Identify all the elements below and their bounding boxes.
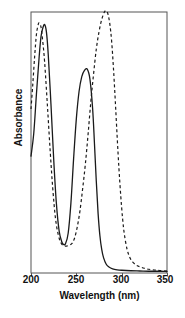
y-axis-label: Absorbance (13, 78, 24, 158)
x-tick-label-200: 200 (16, 274, 46, 285)
series-line-solid (31, 24, 167, 271)
x-axis-label: Wavelength (nm) (31, 290, 168, 301)
figure: Absorbance 200 250 300 350 Wavelength (n… (0, 0, 185, 318)
chart-canvas (0, 0, 185, 318)
x-tick-label-300: 300 (106, 274, 136, 285)
plot-frame (31, 12, 167, 273)
x-axis-ticks (32, 273, 168, 277)
x-tick-label-350: 350 (150, 274, 180, 285)
x-tick-label-250: 250 (61, 274, 91, 285)
